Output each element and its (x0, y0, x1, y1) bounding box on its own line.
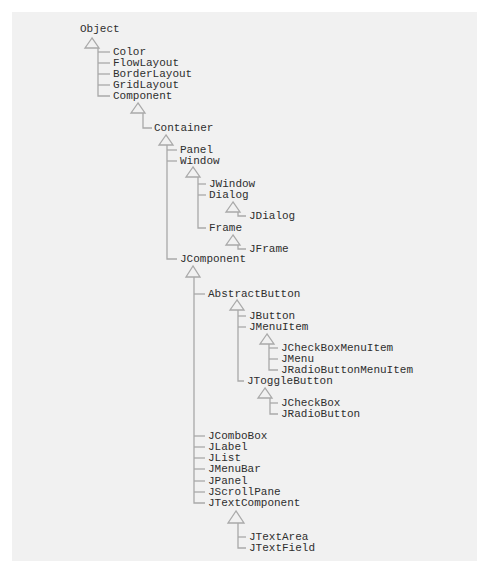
class-node-object: Object (80, 24, 120, 35)
inheritance-arrow-icon (226, 202, 240, 212)
class-node-window: Window (180, 156, 220, 167)
inheritance-arrow-icon (159, 135, 173, 145)
class-node-jmenuitem: JMenuItem (249, 322, 308, 333)
class-node-jmenubar: JMenuBar (208, 464, 261, 475)
inheritance-arrow-icon (258, 388, 272, 398)
class-node-dialog: Dialog (209, 190, 249, 201)
class-node-container: Container (154, 123, 213, 134)
class-node-frame: Frame (209, 223, 242, 234)
class-node-jcomponent: JComponent (180, 254, 246, 265)
class-node-jtogglebutton: JToggleButton (247, 376, 333, 387)
inheritance-arrow-icon (230, 300, 244, 310)
inheritance-arrow-icon (228, 511, 244, 523)
class-node-jtextcomponent: JTextComponent (208, 498, 300, 509)
inheritance-arrow-icon (131, 103, 145, 113)
inheritance-arrow-icon (186, 266, 200, 277)
class-node-abstractbutton: AbstractButton (208, 289, 300, 300)
inheritance-arrow-icon (85, 38, 99, 48)
class-node-jradiobutton: JRadioButton (281, 409, 360, 420)
class-node-component: Component (113, 91, 172, 102)
inheritance-arrow-icon (260, 334, 274, 344)
class-node-jframe: JFrame (249, 244, 289, 255)
class-node-jtextfield: JTextField (249, 543, 315, 554)
inheritance-arrow-icon (226, 235, 240, 245)
inheritance-arrow-icon (186, 167, 200, 177)
class-node-jdialog: JDialog (249, 211, 295, 222)
